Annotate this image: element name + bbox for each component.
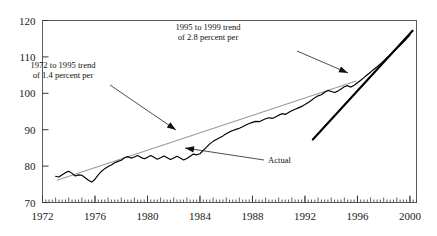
- y-tick-label-120: 120: [19, 15, 36, 27]
- x-tick-label-1980: 1980: [136, 210, 159, 222]
- y-tick-label-70: 70: [25, 197, 37, 209]
- x-axis-tick-labels: 19721976198019841988199219962000: [32, 210, 422, 222]
- x-tick-label-1992: 1992: [294, 210, 316, 222]
- trend-line-1995-1999: [313, 31, 413, 140]
- x-tick-label-2000: 2000: [399, 210, 422, 222]
- y-tick-label-80: 80: [25, 160, 37, 172]
- chart-container: 708090100110120 197219761980198419881992…: [0, 0, 437, 236]
- annotation-slow-trend: 1972 to 1995 trend of 1.4 percent per: [30, 60, 176, 130]
- annotation-actual-arrow-icon: [185, 146, 194, 152]
- annotation-slow-trend-arrow-icon: [167, 122, 176, 130]
- trend-line-1972-1995: [57, 81, 356, 180]
- y-axis-tick-labels: 708090100110120: [19, 15, 36, 209]
- x-tick-label-1984: 1984: [189, 210, 212, 222]
- actual-data-series: [56, 35, 410, 182]
- annotation-slow-trend-leader: [110, 85, 176, 130]
- annotation-fast-trend-line1: 1995 to 1999 trend: [175, 22, 241, 32]
- y-axis-ticks: [43, 21, 49, 203]
- y-tick-label-90: 90: [25, 124, 37, 136]
- annotation-slow-trend-line1: 1972 to 1995 trend: [30, 60, 96, 70]
- annotation-fast-trend-arrow-icon: [338, 67, 348, 74]
- chart-annotations: 1972 to 1995 trend of 1.4 percent per 19…: [30, 22, 348, 165]
- annotation-actual-label: Actual: [268, 155, 292, 165]
- y-tick-label-100: 100: [19, 87, 36, 99]
- x-tick-label-1988: 1988: [241, 210, 264, 222]
- annotation-actual-leader: [185, 148, 264, 160]
- annotation-actual: Actual: [185, 146, 292, 165]
- annotation-slow-trend-line2: of 1.4 percent per: [33, 70, 94, 80]
- x-tick-label-1996: 1996: [346, 210, 369, 222]
- annotation-fast-trend: 1995 to 1999 trend of 2.8 percent per: [175, 22, 348, 73]
- annotation-fast-trend-line2: of 2.8 percent per: [178, 32, 239, 42]
- x-tick-label-1976: 1976: [84, 210, 107, 222]
- line-chart: 708090100110120 197219761980198419881992…: [0, 0, 437, 236]
- x-tick-label-1972: 1972: [32, 210, 54, 222]
- x-axis-minor-ticks: [43, 197, 417, 203]
